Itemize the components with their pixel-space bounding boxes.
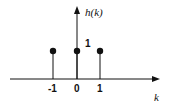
- stems: [50, 48, 103, 79]
- tick-label: 0: [74, 83, 80, 94]
- stem-plot: h(k) 1 -1 0 1 k: [0, 0, 170, 106]
- y-axis-arrow-icon: [74, 6, 80, 14]
- tick-label: 1: [97, 83, 103, 94]
- tick-label: -1: [48, 83, 57, 94]
- plot-svg: h(k) 1 -1 0 1 k: [0, 0, 170, 106]
- stem-dot: [50, 48, 56, 54]
- y-axis-label: h(k): [85, 6, 103, 19]
- x-axis-arrow-icon: [152, 76, 160, 82]
- stem-dot: [97, 48, 103, 54]
- amplitude-label: 1: [85, 38, 91, 49]
- x-axis-label: k: [154, 91, 160, 103]
- stem-dot: [74, 48, 80, 54]
